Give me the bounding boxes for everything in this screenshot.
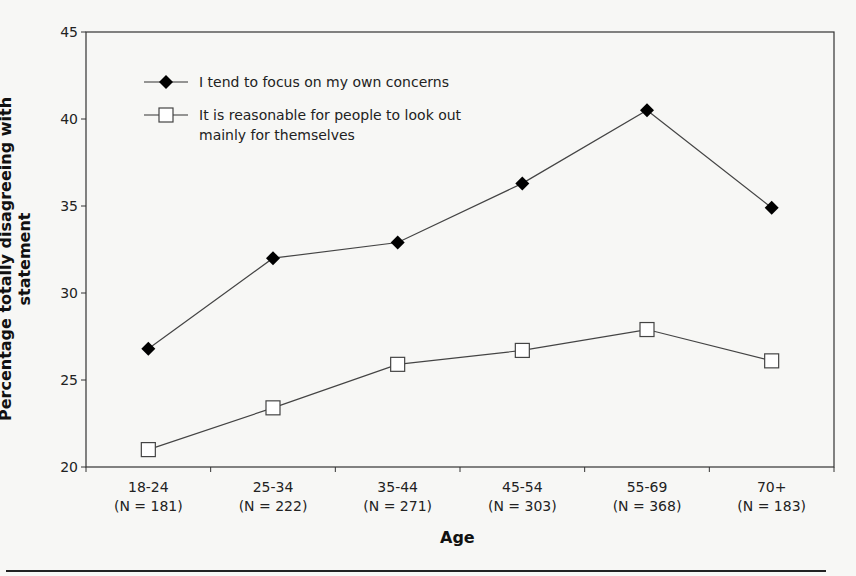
x-tick-label: 70+ [757, 479, 787, 495]
square-marker [765, 354, 779, 368]
x-tick-sample-size: (N = 222) [239, 498, 308, 514]
series-line-2 [148, 330, 771, 450]
x-tick-sample-size: (N = 368) [613, 498, 682, 514]
x-tick-sample-size: (N = 183) [737, 498, 806, 514]
diamond-marker [765, 201, 779, 215]
x-tick-label: 55-69 [627, 479, 668, 495]
square-marker [515, 343, 529, 357]
legend-label-2-cont: mainly for themselves [199, 127, 355, 143]
y-tick-label: 30 [60, 285, 78, 301]
x-tick-sample-size: (N = 303) [488, 498, 557, 514]
legend-diamond-icon [159, 75, 173, 89]
x-tick-sample-size: (N = 271) [363, 498, 432, 514]
plot-frame [86, 32, 834, 467]
legend-label-1: I tend to focus on my own concerns [199, 74, 449, 90]
legend-label-2: It is reasonable for people to look out [199, 107, 462, 123]
x-tick-sample-size: (N = 181) [114, 498, 183, 514]
x-tick-label: 35-44 [377, 479, 418, 495]
diamond-marker [391, 236, 405, 250]
y-tick-label: 45 [60, 24, 78, 40]
diamond-marker [515, 176, 529, 190]
y-tick-label: 35 [60, 198, 78, 214]
x-tick-label: 45-54 [502, 479, 543, 495]
square-marker [141, 443, 155, 457]
diamond-marker [266, 251, 280, 265]
diamond-marker [141, 342, 155, 356]
y-tick-label: 20 [60, 459, 78, 475]
line-chart: 20253035404518-24(N = 181)25-34(N = 222)… [0, 0, 856, 576]
x-tick-label: 25-34 [253, 479, 294, 495]
diamond-marker [640, 103, 654, 117]
y-tick-label: 25 [60, 372, 78, 388]
square-marker [266, 401, 280, 415]
y-tick-label: 40 [60, 111, 78, 127]
square-marker [391, 357, 405, 371]
square-marker [640, 323, 654, 337]
x-tick-label: 18-24 [128, 479, 169, 495]
series-line-1 [148, 110, 771, 348]
legend-square-icon [159, 108, 173, 122]
